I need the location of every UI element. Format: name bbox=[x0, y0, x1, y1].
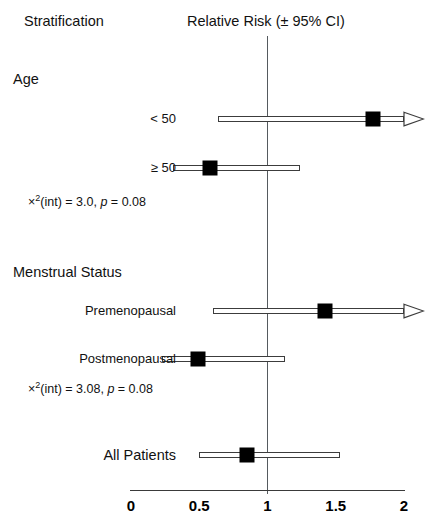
ci-bar-all-patients bbox=[199, 452, 340, 458]
row-label-age-50-and-over: ≥ 50 bbox=[6, 161, 176, 174]
x-axis-tick-0: 0 bbox=[127, 497, 135, 514]
ci-truncation-arrow-icon-age-under-50 bbox=[403, 111, 425, 127]
ci-bar-age-50-and-over bbox=[173, 165, 300, 171]
x-axis-tick-1.5: 1.5 bbox=[325, 497, 346, 514]
row-label-age-under-50: < 50 bbox=[6, 112, 176, 125]
x-axis-tick-1: 1 bbox=[263, 497, 271, 514]
x-axis-tick-0.5: 0.5 bbox=[189, 497, 210, 514]
point-estimate-marker-postmenopausal bbox=[190, 352, 205, 367]
reference-line-at-1 bbox=[267, 36, 268, 494]
point-estimate-marker-premenopausal bbox=[317, 304, 332, 319]
row-label-postmenopausal: Postmenopausal bbox=[6, 352, 176, 365]
ci-bar-postmenopausal bbox=[162, 356, 285, 362]
x-axis-tick-2: 2 bbox=[400, 497, 408, 514]
statistic-age-interaction: ×2(int) = 3.0, p = 0.08 bbox=[28, 194, 146, 209]
point-estimate-marker-age-50-and-over bbox=[203, 161, 218, 176]
x-axis-line bbox=[130, 490, 405, 491]
row-label-all-patients: All Patients bbox=[6, 448, 176, 463]
row-label-premenopausal: Premenopausal bbox=[6, 304, 176, 317]
point-estimate-marker-all-patients bbox=[240, 448, 255, 463]
ci-truncation-arrow-icon-premenopausal bbox=[403, 303, 425, 319]
ci-bar-premenopausal bbox=[213, 308, 404, 314]
statistic-menstrual-interaction: ×2(int) = 3.08, p = 0.08 bbox=[28, 381, 153, 396]
point-estimate-marker-age-under-50 bbox=[365, 112, 380, 127]
